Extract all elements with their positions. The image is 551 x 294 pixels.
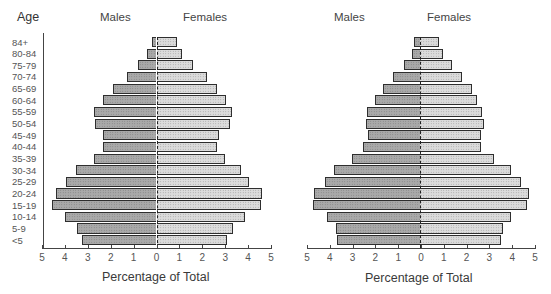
female-bar-80-84 <box>420 49 443 59</box>
female-bar-60-64 <box>420 95 477 105</box>
x-tick-mark <box>489 245 490 249</box>
female-bar-20-24 <box>420 188 529 198</box>
male-bar-65-69 <box>383 84 420 94</box>
female-bar-5-9 <box>420 223 503 233</box>
right-x-axis-title: Percentage of Total <box>365 271 472 285</box>
x-tick-label: 2 <box>368 252 382 263</box>
x-tick-mark <box>307 245 308 249</box>
female-bar-55-59 <box>420 107 482 117</box>
male-bar-10-14 <box>327 212 420 222</box>
female-bar-65-69 <box>420 84 472 94</box>
male-bar-30-34 <box>334 165 420 175</box>
x-tick-mark <box>467 245 468 249</box>
right-population-pyramid: 54321012345 <box>0 0 551 294</box>
x-tick-mark <box>353 245 354 249</box>
female-bar-35-39 <box>420 154 494 164</box>
x-tick-mark <box>535 245 536 249</box>
male-bar-70-74 <box>393 72 420 82</box>
male-bar-75-79 <box>404 60 420 70</box>
male-bar-5-9 <box>336 223 420 233</box>
female-bar-50-54 <box>420 119 484 129</box>
male-bar-35-39 <box>352 154 420 164</box>
female-bar-75-79 <box>420 60 452 70</box>
male-bar-60-64 <box>375 95 420 105</box>
female-bar-45-49 <box>420 130 481 140</box>
x-tick-mark <box>421 245 422 249</box>
x-tick-mark <box>444 245 445 249</box>
x-tick-label: 5 <box>528 252 542 263</box>
x-tick-label: 3 <box>346 252 360 263</box>
female-bar-30-34 <box>420 165 511 175</box>
center-divider-line <box>420 37 421 248</box>
female-bar-70-74 <box>420 72 462 82</box>
male-bar-45-49 <box>368 130 420 140</box>
x-tick-label: 4 <box>505 252 519 263</box>
x-tick-label: 1 <box>437 252 451 263</box>
x-tick-label: 4 <box>323 252 337 263</box>
x-tick-mark <box>375 245 376 249</box>
x-tick-label: 0 <box>414 252 428 263</box>
x-tick-label: 3 <box>482 252 496 263</box>
male-bar-55-59 <box>367 107 420 117</box>
male-bar-15-19 <box>313 200 420 210</box>
male-bar-40-44 <box>363 142 420 152</box>
male-bar-20-24 <box>314 188 420 198</box>
male-bar-<5 <box>337 235 420 245</box>
female-bar-10-14 <box>420 212 511 222</box>
x-tick-mark <box>512 245 513 249</box>
female-bar-40-44 <box>420 142 481 152</box>
female-bar-15-19 <box>420 200 527 210</box>
x-tick-mark <box>330 245 331 249</box>
female-bar-84+ <box>420 37 439 47</box>
x-tick-label: 1 <box>391 252 405 263</box>
male-bar-80-84 <box>412 49 420 59</box>
male-bar-50-54 <box>366 119 420 129</box>
female-bar-<5 <box>420 235 501 245</box>
x-tick-label: 5 <box>300 252 314 263</box>
female-bar-25-29 <box>420 177 521 187</box>
left-x-axis-title: Percentage of Total <box>102 270 209 284</box>
x-tick-mark <box>398 245 399 249</box>
x-tick-label: 2 <box>460 252 474 263</box>
male-bar-25-29 <box>325 177 420 187</box>
